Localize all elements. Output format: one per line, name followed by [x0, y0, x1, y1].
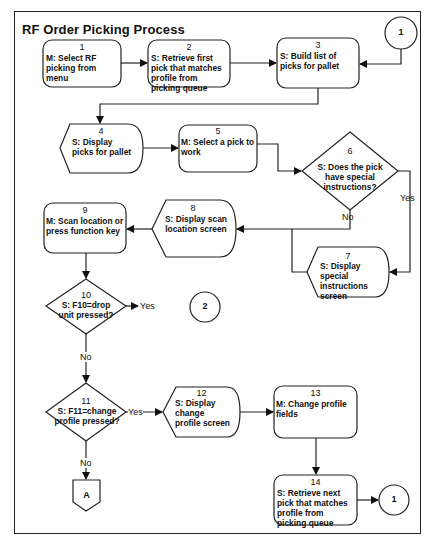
- edge-label-11-no: No: [80, 458, 92, 468]
- node-4-text: S: Display picks for pallet: [72, 137, 132, 157]
- node-7-number: 7: [307, 251, 389, 261]
- connector-1-bottom: 1: [386, 494, 402, 504]
- node-8-number: 8: [150, 203, 236, 213]
- node-2-number: 2: [148, 42, 230, 52]
- edge-label-6-yes: Yes: [400, 193, 415, 203]
- node-9-text: M: Scan location or press function key: [46, 216, 126, 236]
- node-10-text: S: F10=drop unit pressed?: [54, 300, 118, 320]
- node-6-number: 6: [330, 146, 370, 156]
- node-9-number: 9: [44, 205, 126, 215]
- offpage-connector-a: A: [73, 490, 100, 500]
- node-2-text: S: Retrieve first pick that matches prof…: [151, 53, 229, 93]
- edge-label-11-yes: Yes: [128, 407, 143, 417]
- node-10-number: 10: [66, 290, 106, 300]
- node-4-number: 4: [60, 126, 142, 136]
- node-5-text: M: Select a pick to work: [181, 137, 256, 157]
- node-3-text: S: Build list of picks for pallet: [280, 51, 358, 71]
- node-14-text: S: Retrieve next pick that matches profi…: [277, 488, 355, 528]
- node-11-text: S: F11=change profile pressed?: [54, 406, 120, 426]
- edge-label-10-yes: Yes: [140, 301, 155, 311]
- node-1-text: M: Select RF picking from menu: [46, 53, 120, 83]
- node-1-number: 1: [43, 42, 121, 52]
- node-11-number: 11: [66, 396, 106, 406]
- connector-1-top: 1: [393, 27, 409, 37]
- connector-2: 2: [197, 301, 213, 311]
- node-12-text: S: Display change profile screen: [175, 398, 231, 428]
- node-13-number: 13: [274, 388, 357, 398]
- node-6-text: S: Does the pick have special instructio…: [316, 162, 384, 192]
- node-13-text: M: Change profile fields: [276, 399, 354, 419]
- node-3-number: 3: [277, 40, 359, 50]
- node-14-number: 14: [274, 477, 357, 487]
- node-7-text: S: Display special instructions screen: [320, 261, 388, 301]
- node-8-text: S: Display scan location screen: [165, 214, 227, 234]
- node-12-number: 12: [163, 388, 240, 398]
- node-5-number: 5: [179, 126, 257, 136]
- edge-label-10-no: No: [80, 352, 92, 362]
- edge-label-6-no: No: [342, 212, 354, 222]
